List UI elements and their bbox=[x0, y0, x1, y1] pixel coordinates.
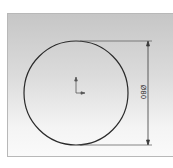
sketch-canvas: Ø80 bbox=[0, 0, 173, 168]
dimension-label[interactable]: Ø80 bbox=[139, 85, 147, 99]
origin-axes-icon bbox=[75, 77, 85, 94]
